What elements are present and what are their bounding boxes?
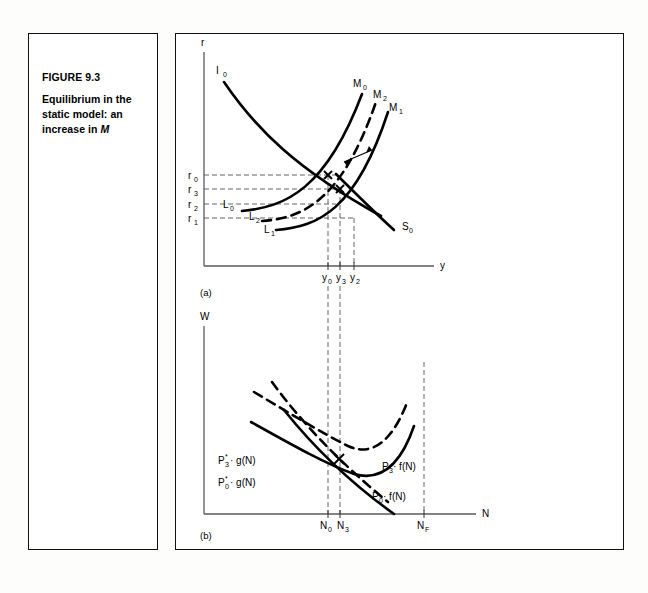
panel-a-ytick-r1-sub: 1 xyxy=(194,219,198,226)
panel-a-xtick-label-y2: y 2 xyxy=(350,272,360,285)
panel-b-label-P3f-base: P xyxy=(382,461,389,472)
panel-b-xtick-label-NF: N F xyxy=(417,520,429,533)
figure-title-line-1: Equilibrium in the xyxy=(42,93,132,105)
panel-a-xtick-y3-sub: 3 xyxy=(342,278,346,285)
panel-a-label-L1-sub: 1 xyxy=(271,230,275,237)
panel-b-label-P3-f: P 3 · f(N) xyxy=(382,461,416,474)
panel-a-label-M0: M 0 xyxy=(353,78,367,91)
panel-a-label-L0-sub: 0 xyxy=(230,205,234,212)
panel-a-ytick-r3-base: r xyxy=(188,184,192,195)
panel-a-xtick-y0-base: y xyxy=(322,272,327,283)
panel-a-label-L1-base: L xyxy=(264,224,270,235)
panel-b-curve-P3-star-g xyxy=(254,392,408,449)
panel-a-xtick-y0-sub: 0 xyxy=(328,278,332,285)
panel-b-x-axis-label: N xyxy=(482,508,489,519)
panel-b-equilibrium-mark xyxy=(334,454,344,464)
panel-a-xtick-label-y3: y 3 xyxy=(336,272,346,285)
panel-b-xtick-label-N3: N 3 xyxy=(337,520,349,533)
panel-a-y-axis-label: r xyxy=(201,37,205,48)
figure-title-line-2: static model: an xyxy=(42,108,123,120)
panel-a-label-M2-base: M xyxy=(373,89,381,100)
panel-b-label-P3g-base: P xyxy=(218,455,225,466)
panel-a-label-I0: I 0 xyxy=(216,65,227,78)
figure-drawing: r y xyxy=(176,34,622,548)
panel-a-label-M2-sub: 2 xyxy=(383,95,387,102)
panel-a-label-M0-sub: 0 xyxy=(363,84,367,91)
caption-text-block: FIGURE 9.3 Equilibrium in the static mod… xyxy=(42,71,146,137)
panel-a-ytick-r2-base: r xyxy=(188,199,192,210)
panel-a-ytick-r3: r 3 xyxy=(188,184,198,197)
panel-a-label-M2: M 2 xyxy=(373,89,387,102)
panel-b-xtick-N0-sub: 0 xyxy=(328,526,332,533)
panel-a-ytick-r0-sub: 0 xyxy=(194,176,198,183)
panel-b-group: W N xyxy=(200,311,489,541)
panel-a-label-S0: S 0 xyxy=(402,221,413,234)
panel-a-ytick-r3-sub: 3 xyxy=(194,190,198,197)
panel-b-label-P0g-sup: * xyxy=(225,475,228,482)
panel-b-label-P3g-sub: 3 xyxy=(225,461,229,468)
panel-a-label-L0-base: L xyxy=(223,199,229,210)
panel-a-xtick-y3-base: y xyxy=(336,272,341,283)
panel-a-label-M1-base: M xyxy=(389,102,397,113)
panel-a-label-M0-base: M xyxy=(353,78,361,89)
panel-b-label-P0g-base: P xyxy=(218,477,225,488)
caption-box: FIGURE 9.3 Equilibrium in the static mod… xyxy=(28,33,158,550)
panel-b-label-P3-star-g: P 3 * · g(N) xyxy=(218,453,256,468)
panel-b-xtick-NF-sub: F xyxy=(425,526,429,533)
panel-a-xtick-label-y0: y 0 xyxy=(322,272,332,285)
panel-a-label: (a) xyxy=(200,287,212,298)
panel-b-label-P3g-sup: * xyxy=(225,453,228,460)
panel-b-xtick-N3-sub: 3 xyxy=(345,526,349,533)
panel-b-label-P0f-base: P xyxy=(372,491,379,502)
panel-b-xtick-label-N0: N 0 xyxy=(320,520,332,533)
panel-a-group: r y xyxy=(188,37,445,298)
panel-b-label-P0-star-g: P 0 * · g(N) xyxy=(218,475,256,490)
panel-a-label-S0-base: S xyxy=(402,221,409,232)
panel-a-label-L2-sub: 2 xyxy=(256,217,260,224)
panel-a-label-I0-sub: 0 xyxy=(223,71,227,78)
figure-page: FIGURE 9.3 Equilibrium in the static mod… xyxy=(0,0,648,593)
panel-b-xtick-N0-base: N xyxy=(320,520,327,531)
panel-b-label-P3f-rest: · f(N) xyxy=(393,461,416,472)
figure-box: r y xyxy=(175,33,624,550)
panel-b-label: (b) xyxy=(200,530,212,541)
panel-a-label-I0-base: I xyxy=(216,65,219,76)
panel-a-xtick-y2-sub: 2 xyxy=(356,278,360,285)
panel-b-label-P0g-sub: 0 xyxy=(225,483,229,490)
panel-connector-lines xyxy=(328,286,340,514)
panel-b-label-P3g-rest: · g(N) xyxy=(230,455,256,466)
panel-a-label-L2-base: L xyxy=(249,211,255,222)
panel-b-xtick-NF-base: N xyxy=(417,520,424,531)
panel-b-xtick-N3-base: N xyxy=(337,520,344,531)
panel-b-label-P0g-rest: · g(N) xyxy=(230,477,256,488)
panel-a-label-L0: L 0 xyxy=(223,199,234,212)
panel-a-xtick-y2-base: y xyxy=(350,272,355,283)
figure-number: FIGURE 9.3 xyxy=(42,71,146,83)
panel-a-label-L1: L 1 xyxy=(264,224,275,237)
panel-a-label-M1: M 1 xyxy=(389,102,403,115)
panel-b-y-axis-label: W xyxy=(200,311,210,322)
panel-a-label-S0-sub: 0 xyxy=(409,227,413,234)
panel-a-ytick-r1: r 1 xyxy=(188,213,198,226)
panel-a-ytick-r1-base: r xyxy=(188,213,192,224)
figure-title-variable-m: M xyxy=(100,123,109,135)
panel-a-ytick-r0: r 0 xyxy=(188,170,198,183)
panel-a-label-L2: L 2 xyxy=(249,211,260,224)
panel-a-ytick-r2: r 2 xyxy=(188,199,198,212)
panel-a-label-M1-sub: 1 xyxy=(399,108,403,115)
panel-a-ytick-r0-base: r xyxy=(188,170,192,181)
panel-a-x-axis-label: y xyxy=(440,260,445,271)
figure-title-line-3-prefix: increase in xyxy=(42,123,100,135)
panel-a-curve-S0 xyxy=(336,174,394,230)
figure-title: Equilibrium in the static model: an incr… xyxy=(42,92,146,137)
panel-b-label-P0f-rest: · f(N) xyxy=(383,491,406,502)
panel-a-ytick-r2-sub: 2 xyxy=(194,205,198,212)
